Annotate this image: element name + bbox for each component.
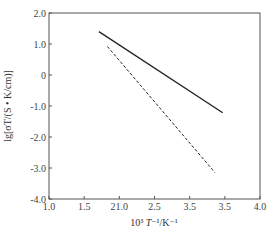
- x-tick-label: 21.0: [111, 201, 129, 212]
- y-tick-label: 0: [41, 70, 46, 81]
- x-tick-label: 3.5: [219, 201, 232, 212]
- plot-series: [99, 32, 223, 173]
- x-tick-label: 2.5: [148, 201, 161, 212]
- y-tick-label: 2.0: [34, 8, 47, 19]
- plot-frame: [49, 13, 260, 199]
- x-axis-label: 10³ T⁻¹/K⁻¹: [130, 217, 178, 228]
- dashed-line-series: [107, 46, 215, 172]
- x-tick-label: 4.0: [254, 201, 267, 212]
- y-axis-label: lg[σT/(S • K/cm)]: [2, 70, 14, 142]
- chart: 1.01.521.02.53.53.54.0 2.01.00-1.0-2.0-3…: [0, 0, 275, 233]
- y-tick-label: 1.0: [34, 39, 47, 50]
- y-tick-label: -4.0: [30, 194, 46, 205]
- x-tick-label: 1.5: [78, 201, 91, 212]
- x-axis-ticks: 1.01.521.02.53.53.54.0: [43, 196, 267, 212]
- y-tick-label: -2.0: [30, 132, 46, 143]
- y-tick-label: -1.0: [30, 101, 46, 112]
- x-tick-label: 3.5: [183, 201, 196, 212]
- y-tick-label: -3.0: [30, 163, 46, 174]
- solid-line-series: [99, 32, 223, 113]
